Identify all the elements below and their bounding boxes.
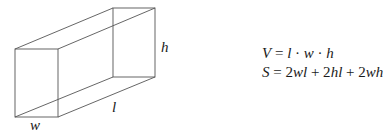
width-label: w	[30, 118, 40, 133]
volume-formula: V = l · w · h	[262, 46, 334, 61]
surface-area-formula: S = 2wl + 2hl + 2wh	[262, 65, 383, 80]
length-label: l	[112, 100, 116, 115]
back-face	[113, 8, 155, 77]
height-label: h	[161, 40, 169, 55]
front-face	[15, 49, 58, 117]
